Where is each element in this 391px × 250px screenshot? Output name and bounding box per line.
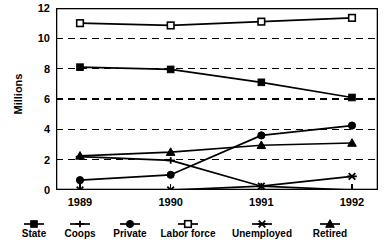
- y-tick-label: 8: [24, 64, 50, 74]
- series-unemployed: [75, 173, 357, 190]
- x-tick-label: 1992: [329, 196, 375, 208]
- y-axis-title: Millions: [12, 54, 24, 134]
- y-tick-label: 2: [24, 155, 50, 165]
- series-private: [76, 122, 355, 184]
- y-tick-label: 6: [24, 94, 50, 104]
- legend-item-unemployed[interactable]: Unemployed: [222, 216, 302, 240]
- x-tick-label: 1991: [238, 196, 284, 208]
- gridlines: [56, 38, 378, 159]
- open-square-icon: [151, 216, 225, 228]
- legend-item-state[interactable]: State: [10, 216, 58, 240]
- chart-legend: StateCoopsPrivateLabor forceUnemployedRe…: [0, 216, 391, 250]
- legend-item-coops[interactable]: Coops: [54, 216, 106, 240]
- y-tick-label: 4: [24, 124, 50, 134]
- legend-item-labor-force[interactable]: Labor force: [151, 216, 225, 240]
- plus-icon: [54, 216, 106, 228]
- filled-square-icon: [10, 216, 58, 228]
- x-tick-label: 1990: [148, 196, 194, 208]
- y-tick-label: 0: [24, 185, 50, 195]
- series-labor-force: [77, 15, 356, 29]
- chart-figure: Millions 024681012 1989199019911992 Stat…: [0, 0, 391, 250]
- series-layer: [75, 15, 357, 190]
- legend-label: Labor force: [151, 228, 225, 240]
- series-coops: [76, 153, 357, 190]
- series-state: [77, 64, 356, 101]
- cross-bar-icon: [222, 216, 302, 228]
- filled-triangle-icon: [302, 216, 358, 228]
- legend-label: Unemployed: [222, 228, 302, 240]
- x-tick-label: 1989: [57, 196, 103, 208]
- plot-svg: [56, 8, 378, 190]
- y-tick-label: 10: [24, 33, 50, 43]
- legend-item-retired[interactable]: Retired: [302, 216, 358, 240]
- y-tick-label: 12: [24, 3, 50, 13]
- series-retired: [76, 139, 357, 159]
- plot-area: [56, 8, 378, 190]
